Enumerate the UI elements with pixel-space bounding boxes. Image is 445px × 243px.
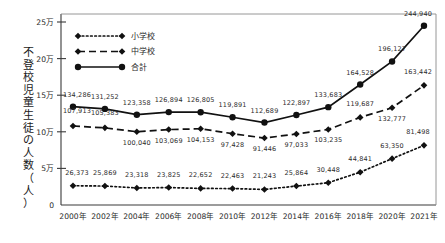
- y-axis-title-char: （: [23, 172, 34, 185]
- value-label: 97,428: [221, 141, 245, 149]
- value-label: 122,897: [282, 99, 310, 107]
- y-tick-label: 15万: [36, 91, 54, 100]
- value-label: 30,448: [316, 166, 340, 174]
- value-label: 112,689: [250, 107, 278, 115]
- data-point-marker: [165, 126, 172, 133]
- value-label: 26,373: [65, 169, 89, 177]
- y-axis-title-char: ）: [23, 197, 34, 210]
- value-label: 134,286: [63, 91, 91, 99]
- x-tick-label-2014年: 2014年: [283, 211, 310, 221]
- x-tick-label-2021年: 2021年: [410, 211, 437, 221]
- data-point-marker: [197, 185, 204, 192]
- x-tick-label-2020年: 2020年: [378, 211, 405, 221]
- value-label: 81,498: [406, 128, 430, 136]
- value-label: 63,350: [380, 142, 404, 150]
- data-point-marker: [293, 131, 300, 138]
- value-label: 119,891: [219, 101, 247, 109]
- y-axis-title-char: 徒: [23, 121, 34, 135]
- value-label: 25,864: [285, 169, 309, 177]
- value-label: 103,235: [314, 136, 342, 144]
- value-label: 21,243: [253, 172, 277, 180]
- y-axis-title-char: 児: [23, 84, 34, 97]
- value-label: 107,913: [63, 107, 91, 115]
- x-tick-label-2002年: 2002年: [91, 211, 118, 221]
- data-point-marker: [75, 33, 82, 40]
- x-tick-label-2006年: 2006年: [155, 211, 182, 221]
- value-labels-中学校: 107,913105,383100,040103,069104,15397,42…: [63, 68, 432, 153]
- line-chart: 不登校児童生徒の人数（人） 05万10万15万20万25万 2000年2002年…: [0, 0, 445, 243]
- value-label: 44,841: [348, 155, 372, 163]
- data-point-marker: [75, 48, 82, 55]
- y-axis-title-char: 数: [23, 159, 34, 172]
- x-tick-label-2018年: 2018年: [347, 211, 374, 221]
- y-tick-label: 25万: [36, 18, 54, 27]
- value-label: 132,777: [378, 115, 406, 123]
- value-label: 244,940: [404, 10, 432, 18]
- data-point-marker: [229, 114, 235, 120]
- y-axis-title: 不登校児童生徒の人数（人）: [23, 46, 34, 210]
- x-tick-label-2016年: 2016年: [315, 211, 342, 221]
- y-axis-title-char: 登: [23, 58, 34, 72]
- y-axis-title-char: 不: [23, 46, 34, 59]
- x-tick-label-2008年: 2008年: [187, 211, 214, 221]
- series-line-小学校: [73, 145, 424, 189]
- value-label: 23,825: [157, 171, 181, 179]
- legend-label-小学校: 小学校: [131, 31, 155, 41]
- y-tick-label: 20万: [36, 55, 54, 64]
- value-label: 23,318: [125, 171, 149, 179]
- data-point-marker: [119, 64, 125, 70]
- y-axis-title-char: 生: [23, 108, 34, 122]
- data-point-marker: [293, 112, 299, 118]
- data-point-marker: [325, 179, 332, 186]
- data-point-marker: [75, 64, 81, 70]
- data-point-marker: [229, 130, 236, 137]
- data-point-marker: [102, 125, 109, 132]
- legend-item-合計[interactable]: 合計: [75, 62, 147, 72]
- data-point-marker: [165, 184, 172, 191]
- data-point-marker: [119, 48, 126, 55]
- y-axis-title-char: 童: [23, 95, 34, 109]
- data-point-marker: [119, 33, 126, 40]
- data-point-marker: [166, 109, 172, 115]
- legend-item-小学校[interactable]: 小学校: [75, 31, 155, 41]
- y-tick: 0: [49, 201, 54, 210]
- data-point-marker: [70, 123, 77, 130]
- value-label: 131,252: [91, 93, 119, 101]
- data-point-marker: [421, 23, 427, 29]
- y-axis-title-char: 人: [23, 147, 34, 160]
- value-label: 123,358: [123, 99, 151, 107]
- chart-container: 不登校児童生徒の人数（人） 05万10万15万20万25万 2000年2002年…: [0, 0, 445, 243]
- x-tick-label-2004年: 2004年: [123, 211, 150, 221]
- legend-item-中学校[interactable]: 中学校: [75, 46, 155, 56]
- y-tick-label: 10万: [36, 128, 54, 137]
- value-label: 163,442: [404, 68, 432, 76]
- data-point-marker: [325, 104, 331, 110]
- value-label: 133,683: [314, 91, 342, 99]
- y-axis-title-char: 人: [23, 185, 34, 198]
- data-point-marker: [389, 105, 396, 112]
- data-point-marker: [389, 58, 395, 64]
- value-label: 119,687: [346, 100, 374, 108]
- x-axis-ticks: 2000年2002年2004年2006年2008年2010年2012年2014年…: [59, 211, 437, 221]
- data-point-marker: [293, 183, 300, 190]
- value-label: 97,033: [285, 141, 309, 149]
- y-axis-title-char: 校: [23, 70, 34, 84]
- data-point-marker: [389, 155, 396, 162]
- data-point-marker: [421, 142, 428, 149]
- x-tick-label-2010年: 2010年: [219, 211, 246, 221]
- y-tick-label: 5万: [41, 164, 54, 173]
- value-label: 100,040: [123, 139, 151, 147]
- data-point-marker: [357, 169, 364, 176]
- value-label: 103,069: [155, 137, 183, 145]
- value-label: 126,805: [187, 96, 215, 104]
- value-label: 25,869: [93, 169, 117, 177]
- data-point-marker: [229, 185, 236, 192]
- value-label: 22,652: [189, 171, 213, 179]
- data-point-marker: [197, 125, 204, 132]
- value-label: 164,528: [346, 69, 374, 77]
- series-小学校: [70, 142, 428, 193]
- value-label: 104,153: [187, 136, 215, 144]
- legend-label-中学校: 中学校: [131, 46, 155, 56]
- data-point-marker: [261, 186, 268, 193]
- data-point-marker: [134, 185, 141, 192]
